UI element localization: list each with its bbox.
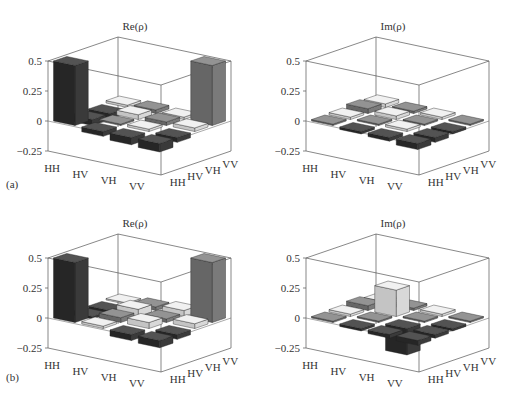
row-label: VH — [101, 371, 117, 383]
bar-face — [53, 258, 74, 323]
col-label: VH — [205, 361, 221, 373]
bar-face — [191, 258, 212, 323]
col-label: HH — [428, 373, 444, 385]
col-label: VV — [222, 158, 238, 170]
z-tick-label: 0.25 — [23, 282, 43, 294]
bar-face — [212, 258, 225, 323]
row-label: HH — [44, 162, 60, 174]
panel-label-a: (a) — [6, 178, 18, 190]
col-label: HH — [170, 373, 186, 385]
z-tick-label: −0.25 — [275, 145, 301, 157]
panel-label-b: (b) — [6, 371, 19, 383]
row-label: VV — [129, 377, 145, 389]
bar-face — [212, 61, 225, 126]
chart-a-im: 0.50.250−0.25HHHVVHVVHHHVVHVVIm(ρ) — [258, 0, 516, 198]
z-tick-label: 0.25 — [281, 85, 301, 97]
row-label: HV — [72, 168, 88, 180]
row-label: VH — [359, 371, 375, 383]
col-label: VV — [480, 158, 496, 170]
col-label: HV — [445, 367, 461, 379]
col-label: HH — [428, 176, 444, 188]
z-tick-label: 0.25 — [23, 85, 43, 97]
z-tick-label: 0.5 — [28, 252, 42, 264]
z-tick-label: 0.25 — [281, 282, 301, 294]
z-tick-label: −0.25 — [275, 342, 301, 354]
row-label: HH — [302, 359, 318, 371]
col-label: VH — [205, 164, 221, 176]
col-label: VH — [463, 164, 479, 176]
z-tick-label: 0 — [37, 312, 43, 324]
z-tick-label: 0.5 — [286, 252, 300, 264]
bar-face — [396, 286, 409, 317]
col-label: VH — [463, 361, 479, 373]
chart-title: Re(ρ) — [122, 20, 147, 33]
row-label: VV — [387, 180, 403, 192]
z-tick-label: −0.25 — [17, 145, 43, 157]
z-tick-label: 0.5 — [286, 55, 300, 67]
z-tick-label: 0 — [295, 115, 301, 127]
z-tick-label: 0 — [37, 115, 43, 127]
row-label: HV — [72, 365, 88, 377]
bar-face — [191, 61, 212, 126]
row-label: VH — [359, 174, 375, 186]
chart-a-re: 0.50.250−0.25HHHVVHVVHHHVVHVVRe(ρ) — [0, 0, 258, 198]
row-label: HH — [302, 162, 318, 174]
bar-face — [75, 258, 88, 323]
chart-b-re: 0.50.250−0.25HHHVVHVVHHHVVHVVRe(ρ) — [0, 195, 258, 393]
z-tick-label: −0.25 — [17, 342, 43, 354]
col-label: HV — [445, 170, 461, 182]
chart-title: Im(ρ) — [380, 217, 405, 230]
row-label: HV — [330, 168, 346, 180]
row-label: HV — [330, 365, 346, 377]
z-tick-label: 0 — [295, 312, 301, 324]
col-label: HV — [187, 367, 203, 379]
row-label: VV — [387, 377, 403, 389]
col-label: VV — [222, 355, 238, 367]
chart-b-im: 0.50.250−0.25HHHVVHVVHHHVVHVVIm(ρ) — [258, 195, 516, 393]
bar-face — [375, 286, 396, 317]
z-tick-label: 0.5 — [28, 55, 42, 67]
row-label: VH — [101, 174, 117, 186]
col-label: HH — [170, 176, 186, 188]
col-label: HV — [187, 170, 203, 182]
chart-title: Re(ρ) — [122, 217, 147, 230]
row-label: VV — [129, 180, 145, 192]
bar-face — [75, 61, 88, 126]
col-label: VV — [480, 355, 496, 367]
row-label: HH — [44, 359, 60, 371]
chart-title: Im(ρ) — [380, 20, 405, 33]
bar-face — [53, 61, 74, 126]
